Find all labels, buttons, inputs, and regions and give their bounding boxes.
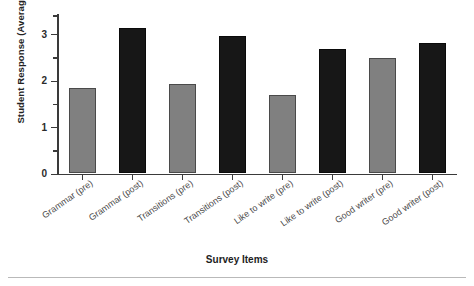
bar[interactable] bbox=[219, 36, 246, 173]
bar[interactable] bbox=[419, 43, 446, 174]
y-axis-tick: 1 bbox=[51, 127, 57, 128]
y-axis-tick-label: 3 bbox=[41, 30, 47, 40]
y-axis-title: Student Response (Average) bbox=[15, 0, 26, 138]
y-axis-tick: 3 bbox=[51, 34, 57, 35]
y-axis-minor-tick bbox=[53, 150, 57, 151]
y-axis-tick-label: 0 bbox=[41, 169, 47, 179]
y-axis-tick-label: 2 bbox=[41, 76, 47, 86]
y-axis-tick: 2 bbox=[51, 81, 57, 82]
y-axis-minor-tick bbox=[53, 57, 57, 58]
footer-divider bbox=[8, 277, 466, 278]
plot-area: 0123 bbox=[57, 14, 457, 175]
y-axis-line bbox=[57, 14, 59, 175]
bar[interactable] bbox=[69, 88, 96, 173]
bar[interactable] bbox=[119, 28, 146, 173]
x-axis-category-labels: Grammar (pre)Grammar (post)Transitions (… bbox=[57, 176, 457, 246]
y-axis-tick: 0 bbox=[51, 174, 57, 175]
y-axis-minor-tick bbox=[53, 104, 57, 105]
bar[interactable] bbox=[169, 84, 196, 173]
y-axis-minor-tick bbox=[53, 15, 57, 16]
bar[interactable] bbox=[269, 95, 296, 173]
bar-chart-figure: Student Response (Average) 0123 Grammar … bbox=[0, 0, 474, 286]
bar[interactable] bbox=[369, 58, 396, 173]
y-axis-tick-label: 1 bbox=[41, 123, 47, 133]
bar[interactable] bbox=[319, 49, 346, 174]
x-axis-line bbox=[57, 174, 457, 176]
x-axis-title: Survey Items bbox=[0, 254, 474, 265]
